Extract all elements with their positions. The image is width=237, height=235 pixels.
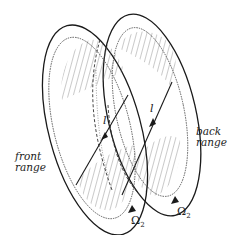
arrow-icon	[101, 132, 108, 140]
orientation-arrow-back	[171, 196, 179, 204]
line-l-front-label: l	[103, 114, 107, 127]
back-range-label: back range	[196, 126, 227, 148]
omega-back-label: Ω2	[177, 205, 191, 220]
line-l-back-label: l	[150, 102, 154, 115]
omega-front-label: Ω2	[131, 214, 145, 229]
front-range-word-2: range	[15, 162, 46, 173]
range-diagram	[0, 0, 237, 235]
front-hatched-lower	[78, 145, 136, 210]
back-hatched-lower	[135, 136, 180, 195]
omega-front-symbol: Ω	[131, 214, 140, 227]
omega-back-subscript: 2	[186, 212, 190, 220]
orientation-arrow-front	[128, 205, 136, 213]
front-range-label: front range	[15, 151, 46, 173]
omega-back-symbol: Ω	[177, 205, 186, 218]
omega-front-subscript: 2	[140, 221, 144, 229]
back-range-word-2: range	[196, 137, 227, 148]
